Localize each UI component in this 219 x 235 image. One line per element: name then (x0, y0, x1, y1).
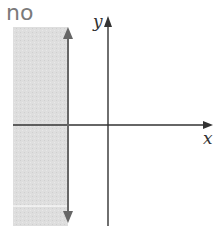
x-axis-label: x (203, 128, 213, 148)
shaded-region (13, 27, 68, 226)
coordinate-graph: x y (0, 0, 219, 235)
y-axis (104, 16, 112, 226)
y-axis-label: y (92, 11, 103, 31)
